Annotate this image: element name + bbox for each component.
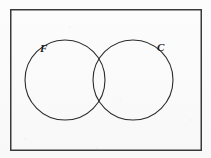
venn-diagram-canvas: F C xyxy=(0,0,211,158)
set-label-f: F xyxy=(39,42,48,54)
venn-diagram-figure: F C xyxy=(0,0,211,158)
set-label-c: C xyxy=(157,41,165,53)
